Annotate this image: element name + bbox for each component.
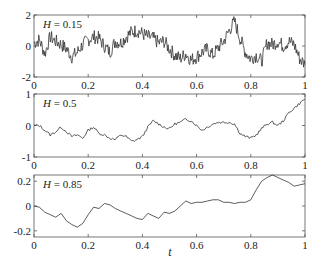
panel-3: 00.20.40.60.810.20-0.2H = 0.85	[14, 175, 308, 251]
x-tick-label: 0.6	[190, 159, 204, 171]
panel-2: 00.20.40.60.8110-1H = 0.5	[22, 88, 308, 171]
y-tick-label: 0	[26, 200, 32, 212]
x-tick-label: 0.4	[136, 79, 150, 91]
x-tick-label: 0.6	[190, 239, 204, 251]
hurst-label: H = 0.5	[42, 97, 77, 109]
panel-1: 00.20.40.60.8120-2H = 0.15	[22, 9, 308, 91]
x-tick-label: 0.8	[244, 159, 258, 171]
y-tick-label: 0	[26, 120, 32, 132]
y-tick-label: 0.2	[17, 175, 31, 187]
x-tick-label: 0.4	[136, 239, 150, 251]
y-tick-label: -0.2	[14, 225, 31, 237]
x-tick-label: 0.8	[244, 79, 258, 91]
y-tick-label: -2	[22, 71, 31, 83]
x-tick-label: 0.2	[81, 79, 95, 91]
x-tick-label: 0	[31, 159, 37, 171]
x-tick-label: 1	[302, 159, 308, 171]
x-tick-label: 1	[302, 239, 308, 251]
y-tick-label: 2	[26, 9, 32, 21]
x-tick-label: 0	[31, 79, 37, 91]
x-tick-label: 0.8	[244, 239, 258, 251]
hurst-label: H = 0.15	[42, 18, 82, 30]
x-tick-label: 0.6	[190, 79, 204, 91]
hurst-label: H = 0.85	[42, 178, 82, 190]
figure: 00.20.40.60.8120-2H = 0.1500.20.40.60.81…	[0, 0, 322, 268]
x-tick-label: 1	[302, 79, 308, 91]
y-tick-label: -1	[22, 151, 31, 163]
x-tick-label: 0	[31, 239, 37, 251]
x-tick-label: 0.4	[136, 159, 150, 171]
y-tick-label: 0	[26, 40, 32, 52]
x-tick-label: 0.2	[81, 159, 95, 171]
x-axis-label: t	[168, 245, 172, 259]
x-tick-label: 0.2	[81, 239, 95, 251]
y-tick-label: 1	[26, 88, 32, 100]
